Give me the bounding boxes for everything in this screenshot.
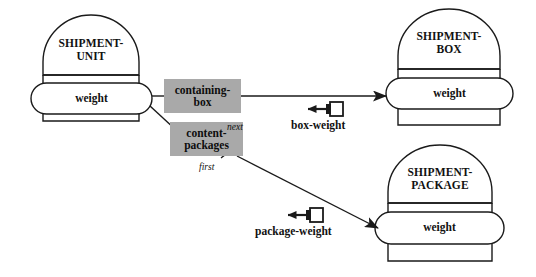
ordering-label-next: next bbox=[227, 122, 243, 132]
entity-shape-shipment-box bbox=[386, 9, 513, 125]
operation-label-package-weight: package-weight bbox=[255, 225, 332, 238]
entity-attribute-shipment-unit-weight: weight bbox=[31, 92, 152, 105]
operation-label-box-weight: box-weight bbox=[291, 119, 345, 132]
ordering-label-first: first bbox=[199, 162, 214, 172]
entity-shape-shipment-package bbox=[375, 145, 504, 261]
entity-attribute-shipment-package-weight: weight bbox=[375, 221, 504, 234]
diagram-canvas: SHIPMENT- UNIT weight SHIPMENT- BOX weig… bbox=[0, 0, 536, 277]
entity-shape-shipment-unit bbox=[31, 15, 152, 121]
operation-icon-package-weight bbox=[288, 208, 323, 222]
operation-icon-box-weight bbox=[308, 102, 343, 116]
role-box-containing-box[interactable]: containing- box bbox=[164, 79, 241, 113]
entity-attribute-shipment-box-weight: weight bbox=[386, 87, 513, 100]
